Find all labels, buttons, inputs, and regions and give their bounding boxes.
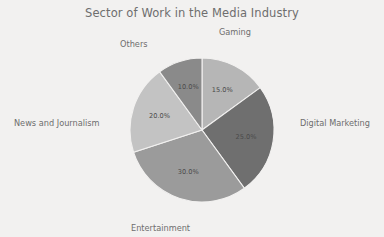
pie-slices-group [130,58,274,202]
pie-category-label-entertainment: Entertainment [131,223,190,233]
pie-chart-figure: Sector of Work in the Media Industry 15.… [0,0,384,237]
pie-category-label-digital-marketing: Digital Marketing [300,118,370,128]
pie-percent-label-gaming: 15.0% [212,86,233,94]
pie-percent-label-news-and-journalism: 20.0% [149,112,170,120]
pie-percent-label-others: 10.0% [178,83,199,91]
pie-percent-label-entertainment: 30.0% [178,168,199,176]
pie-category-label-news-and-journalism: News and Journalism [14,118,100,128]
pie-category-label-gaming: Gaming [219,27,251,37]
pie-percent-label-digital-marketing: 25.0% [236,133,257,141]
pie-category-label-others: Others [120,39,148,49]
